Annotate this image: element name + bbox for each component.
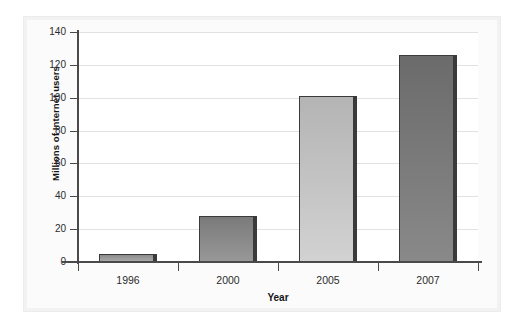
- x-tick-label: 1996: [98, 274, 158, 286]
- x-tick-mark: [78, 262, 79, 271]
- y-tick-label-text: 140: [26, 26, 66, 37]
- y-tick-label-text: 120: [26, 59, 66, 70]
- y-tick-label-text: 60: [26, 157, 66, 168]
- gridline: [78, 32, 478, 33]
- bar-right-edge: [353, 96, 357, 262]
- x-tick-label: 2007: [398, 274, 458, 286]
- x-tick-label: 2005: [298, 274, 358, 286]
- y-axis-title: Millions of Internet users: [50, 49, 61, 199]
- x-tick-mark: [478, 262, 479, 271]
- y-tick-label-text: 100: [26, 92, 66, 103]
- y-tick-label: 60: [20, 157, 66, 169]
- bar-right-edge: [253, 216, 257, 262]
- x-tick-label: 2000: [198, 274, 258, 286]
- bar-body: [399, 55, 453, 262]
- bar-body: [199, 216, 253, 262]
- plot-area: [78, 32, 478, 262]
- y-tick-label: 20: [20, 223, 66, 235]
- y-tick-label: 40: [20, 190, 66, 202]
- bar-body: [299, 96, 353, 262]
- y-tick-label: 80: [20, 125, 66, 137]
- y-tick-label: 140: [20, 26, 66, 38]
- x-axis-line: [62, 261, 482, 263]
- y-tick-label-text: 40: [26, 190, 66, 201]
- x-tick-mark: [378, 262, 379, 271]
- bar: [299, 96, 357, 262]
- y-tick-label: 120: [20, 59, 66, 71]
- y-axis-line: [77, 30, 79, 264]
- y-tick-label-text: 20: [26, 223, 66, 234]
- y-tick-label-text: 80: [26, 125, 66, 136]
- bar: [199, 216, 257, 262]
- y-tick-label: 100: [20, 92, 66, 104]
- x-tick-mark: [278, 262, 279, 271]
- x-tick-mark: [178, 262, 179, 271]
- y-tick-label: 0: [20, 256, 66, 268]
- x-axis-title: Year: [78, 292, 478, 303]
- y-tick-label-text: 0: [26, 256, 66, 267]
- chart-figure: Millions of Internet users 0204060801001…: [0, 0, 520, 330]
- bar: [399, 55, 457, 262]
- bar-right-edge: [453, 55, 457, 262]
